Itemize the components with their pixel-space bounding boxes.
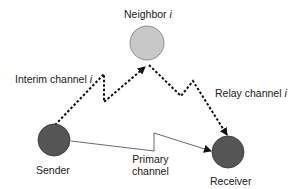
primary-label-line1: Primary: [132, 153, 169, 165]
relay-label-text: Relay channel: [215, 87, 282, 99]
relay-channel-edge: [149, 65, 227, 135]
sender-label: Sender: [36, 164, 70, 176]
relay-label-sub: i: [284, 87, 286, 99]
primary-label-line2: channel: [132, 165, 169, 177]
neighbor-label-text: Neighbor: [124, 8, 167, 20]
neighbor-label: Neighbor i: [124, 8, 172, 20]
primary-channel-label: Primary channel: [132, 153, 169, 177]
relay-channel-label: Relay channel i: [215, 87, 287, 99]
primary-channel-edge: [71, 133, 211, 151]
sender-node: [38, 124, 70, 156]
interim-channel-label: Interim channel i: [15, 73, 92, 85]
neighbor-label-sub: i: [170, 8, 172, 20]
receiver-label: Receiver: [210, 175, 251, 187]
interim-label-text: Interim channel: [15, 73, 87, 85]
interim-label-sub: i: [90, 73, 92, 85]
receiver-node: [212, 136, 244, 168]
neighbor-node: [130, 26, 164, 60]
